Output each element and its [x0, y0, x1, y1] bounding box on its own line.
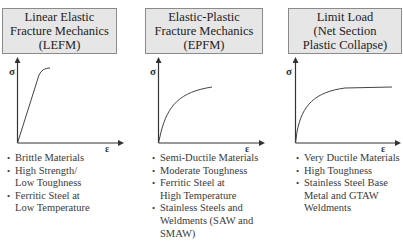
bullet-icon: •	[152, 165, 155, 178]
bullet-icon: •	[296, 177, 299, 190]
epfm-sigma-label: σ	[150, 65, 156, 77]
list-item: • Ferritic Steel at Low Temperature	[7, 190, 90, 215]
epfm-material-list: • Semi-Ductile Materials • Moderate Toug…	[152, 152, 258, 240]
lefm-stress-strain-plot: σ ε	[9, 60, 121, 154]
list-item: • Semi-Ductile Materials	[152, 152, 258, 165]
list-item: • Very Ductile Materials	[296, 152, 400, 165]
lefm-material-list: • Brittle Materials • High Strength/ Low…	[7, 152, 90, 215]
limit-load-sigma-label: σ	[286, 65, 292, 77]
list-item: • High Toughness	[296, 165, 400, 178]
bullet-icon: •	[7, 152, 10, 165]
epfm-stress-strain-plot: σ ε	[150, 60, 262, 154]
limit-load-material-list: • Very Ductile Materials • High Toughnes…	[296, 152, 400, 215]
lefm-epsilon-label: ε	[105, 143, 110, 154]
bullet-icon: •	[296, 165, 299, 178]
bullet-icon: •	[296, 152, 299, 165]
bullet-icon: •	[152, 152, 155, 165]
limit-load-stress-strain-plot: σ ε	[286, 60, 398, 154]
list-item: • High Strength/ Low Toughness	[7, 165, 90, 190]
list-item: • Stainless Steels and Weldments (SAW an…	[152, 202, 258, 240]
list-item: • Brittle Materials	[7, 152, 90, 165]
epfm-curve	[159, 87, 213, 143]
lefm-curve	[18, 68, 51, 143]
bullet-icon: •	[152, 202, 155, 215]
bullet-icon: •	[152, 177, 155, 190]
list-item: • Ferritic Steel at High Temperature	[152, 177, 258, 202]
bullet-icon: •	[7, 190, 10, 203]
list-item: • Moderate Toughness	[152, 165, 258, 178]
lefm-sigma-label: σ	[9, 65, 15, 77]
list-item: • Stainless Steel Base Metal and GTAW We…	[296, 177, 400, 215]
limit-load-curve	[296, 87, 393, 143]
bullet-icon: •	[7, 165, 10, 178]
